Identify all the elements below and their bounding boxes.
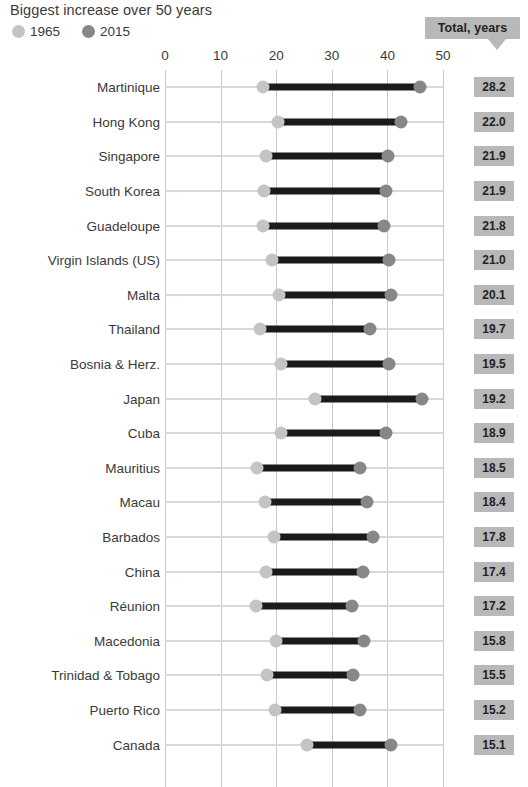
- total-value-badge: 18.9: [474, 423, 514, 443]
- total-column-header: Total, years: [425, 17, 520, 50]
- table-row[interactable]: Singapore21.9: [0, 139, 528, 174]
- data-point-2015[interactable]: [361, 496, 374, 509]
- row-label: Réunion: [110, 599, 160, 614]
- table-row[interactable]: Trinidad & Tobago15.5: [0, 658, 528, 693]
- data-point-2015[interactable]: [414, 81, 427, 94]
- table-row[interactable]: Virgin Islands (US)21.0: [0, 243, 528, 278]
- total-value-badge: 19.5: [474, 354, 514, 374]
- table-row[interactable]: Japan19.2: [0, 381, 528, 416]
- table-row[interactable]: Canada15.1: [0, 727, 528, 762]
- total-value-badge: 15.1: [474, 735, 514, 755]
- data-point-1965[interactable]: [260, 150, 273, 163]
- data-point-2015[interactable]: [415, 392, 428, 405]
- data-point-1965[interactable]: [300, 738, 313, 751]
- row-connector-bar: [265, 499, 367, 506]
- row-connector-bar: [281, 430, 386, 437]
- data-point-1965[interactable]: [266, 254, 279, 267]
- data-point-1965[interactable]: [272, 115, 285, 128]
- data-point-2015[interactable]: [384, 288, 397, 301]
- circle-icon: [82, 25, 95, 38]
- table-row[interactable]: Macedonia15.8: [0, 624, 528, 659]
- data-point-1965[interactable]: [260, 565, 273, 578]
- data-point-1965[interactable]: [272, 288, 285, 301]
- table-row[interactable]: Guadeloupe21.8: [0, 208, 528, 243]
- table-row[interactable]: South Korea21.9: [0, 174, 528, 209]
- data-point-1965[interactable]: [250, 600, 263, 613]
- table-row[interactable]: Réunion17.2: [0, 589, 528, 624]
- data-point-1965[interactable]: [257, 185, 270, 198]
- data-point-2015[interactable]: [384, 738, 397, 751]
- total-value-badge: 21.9: [474, 181, 514, 201]
- row-label: Puerto Rico: [89, 703, 160, 718]
- total-value-badge: 17.8: [474, 527, 514, 547]
- data-point-1965[interactable]: [259, 496, 272, 509]
- legend-label-2015: 2015: [100, 24, 130, 39]
- data-point-1965[interactable]: [254, 323, 267, 336]
- legend-label-1965: 1965: [30, 24, 60, 39]
- row-connector-bar: [276, 637, 364, 644]
- data-point-1965[interactable]: [267, 531, 280, 544]
- table-row[interactable]: Martinique28.2: [0, 70, 528, 105]
- data-point-2015[interactable]: [378, 219, 391, 232]
- row-label: Barbados: [102, 530, 160, 545]
- data-point-2015[interactable]: [356, 565, 369, 578]
- table-row[interactable]: Malta20.1: [0, 278, 528, 313]
- table-row[interactable]: Puerto Rico15.2: [0, 693, 528, 728]
- row-connector-bar: [263, 84, 420, 91]
- data-point-1965[interactable]: [251, 461, 264, 474]
- table-row[interactable]: Bosnia & Herz.19.5: [0, 347, 528, 382]
- data-point-1965[interactable]: [269, 704, 282, 717]
- data-point-1965[interactable]: [274, 358, 287, 371]
- data-point-1965[interactable]: [309, 392, 322, 405]
- data-point-2015[interactable]: [354, 461, 367, 474]
- total-value-badge: 22.0: [474, 112, 514, 132]
- row-label: Bosnia & Herz.: [70, 357, 160, 372]
- table-row[interactable]: Macau18.4: [0, 485, 528, 520]
- row-label: Macedonia: [94, 633, 160, 648]
- table-row[interactable]: Hong Kong22.0: [0, 105, 528, 140]
- row-label: China: [125, 564, 160, 579]
- total-value-badge: 15.2: [474, 700, 514, 720]
- row-connector-bar: [278, 118, 400, 125]
- data-point-2015[interactable]: [383, 358, 396, 371]
- row-connector-bar: [274, 534, 373, 541]
- row-label: South Korea: [85, 184, 160, 199]
- row-label: Virgin Islands (US): [48, 253, 160, 268]
- table-row[interactable]: Cuba18.9: [0, 416, 528, 451]
- row-label: Hong Kong: [92, 114, 160, 129]
- row-connector-bar: [272, 257, 389, 264]
- total-value-badge: 21.0: [474, 250, 514, 270]
- table-row[interactable]: Mauritius18.5: [0, 451, 528, 486]
- data-point-2015[interactable]: [353, 704, 366, 717]
- x-axis-tick-10: 10: [213, 48, 228, 63]
- total-value-badge: 18.4: [474, 492, 514, 512]
- table-row[interactable]: Thailand19.7: [0, 312, 528, 347]
- row-label: Japan: [123, 391, 160, 406]
- page-title: Biggest increase over 50 years: [10, 2, 212, 18]
- data-point-2015[interactable]: [346, 669, 359, 682]
- total-value-badge: 20.1: [474, 285, 514, 305]
- data-point-2015[interactable]: [394, 115, 407, 128]
- data-point-1965[interactable]: [260, 669, 273, 682]
- row-label: Macau: [119, 495, 160, 510]
- data-point-2015[interactable]: [379, 185, 392, 198]
- chart-plot-area: 01020304050 Martinique28.2Hong Kong22.0S…: [0, 48, 528, 787]
- data-point-1965[interactable]: [275, 427, 288, 440]
- data-point-2015[interactable]: [358, 634, 371, 647]
- data-point-2015[interactable]: [380, 427, 393, 440]
- data-point-2015[interactable]: [383, 254, 396, 267]
- row-connector-bar: [264, 188, 386, 195]
- data-point-2015[interactable]: [381, 150, 394, 163]
- chart-grid: Martinique28.2Hong Kong22.0Singapore21.9…: [0, 70, 528, 787]
- table-row[interactable]: Barbados17.8: [0, 520, 528, 555]
- data-point-1965[interactable]: [257, 81, 270, 94]
- data-point-2015[interactable]: [363, 323, 376, 336]
- total-value-badge: 15.5: [474, 665, 514, 685]
- legend: 1965 2015: [12, 24, 130, 39]
- table-row[interactable]: China17.4: [0, 554, 528, 589]
- data-point-2015[interactable]: [366, 531, 379, 544]
- x-axis-tick-40: 40: [380, 48, 395, 63]
- data-point-2015[interactable]: [345, 600, 358, 613]
- data-point-1965[interactable]: [256, 219, 269, 232]
- data-point-1965[interactable]: [270, 634, 283, 647]
